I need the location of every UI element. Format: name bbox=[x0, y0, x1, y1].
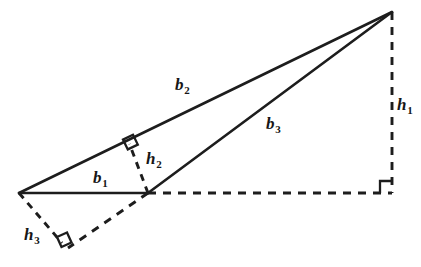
label-h3-base: h bbox=[24, 225, 34, 244]
label-b3: b3 bbox=[266, 115, 280, 132]
label-b2-subscript: 2 bbox=[184, 84, 190, 96]
label-h2-base: h bbox=[146, 149, 156, 168]
label-h3: h3 bbox=[24, 226, 39, 243]
label-b1: b1 bbox=[93, 169, 107, 186]
label-b1-subscript: 1 bbox=[102, 177, 108, 189]
label-b1-base: b bbox=[93, 168, 102, 187]
segments-layer bbox=[19, 12, 392, 248]
segment-b3-extension bbox=[68, 193, 148, 248]
segment-b3 bbox=[148, 12, 392, 193]
diagram-canvas bbox=[0, 0, 421, 267]
label-h1: h1 bbox=[397, 96, 412, 113]
label-b3-base: b bbox=[266, 114, 275, 133]
label-b3-subscript: 3 bbox=[275, 123, 281, 135]
label-h2: h2 bbox=[146, 150, 161, 167]
segment-b2 bbox=[19, 12, 392, 193]
label-b2-base: b bbox=[175, 75, 184, 94]
right-angle-markers-layer bbox=[57, 135, 392, 247]
label-h1-subscript: 1 bbox=[407, 104, 413, 116]
label-h1-base: h bbox=[397, 95, 407, 114]
label-b2: b2 bbox=[175, 76, 189, 93]
label-h3-subscript: 3 bbox=[34, 234, 40, 246]
label-h2-subscript: 2 bbox=[156, 158, 162, 170]
geometry-diagram: b1b2b3h1h2h3 bbox=[0, 0, 421, 267]
right-angle-marker-ra-h3 bbox=[57, 233, 72, 248]
right-angle-marker-ra-h1 bbox=[380, 181, 392, 193]
